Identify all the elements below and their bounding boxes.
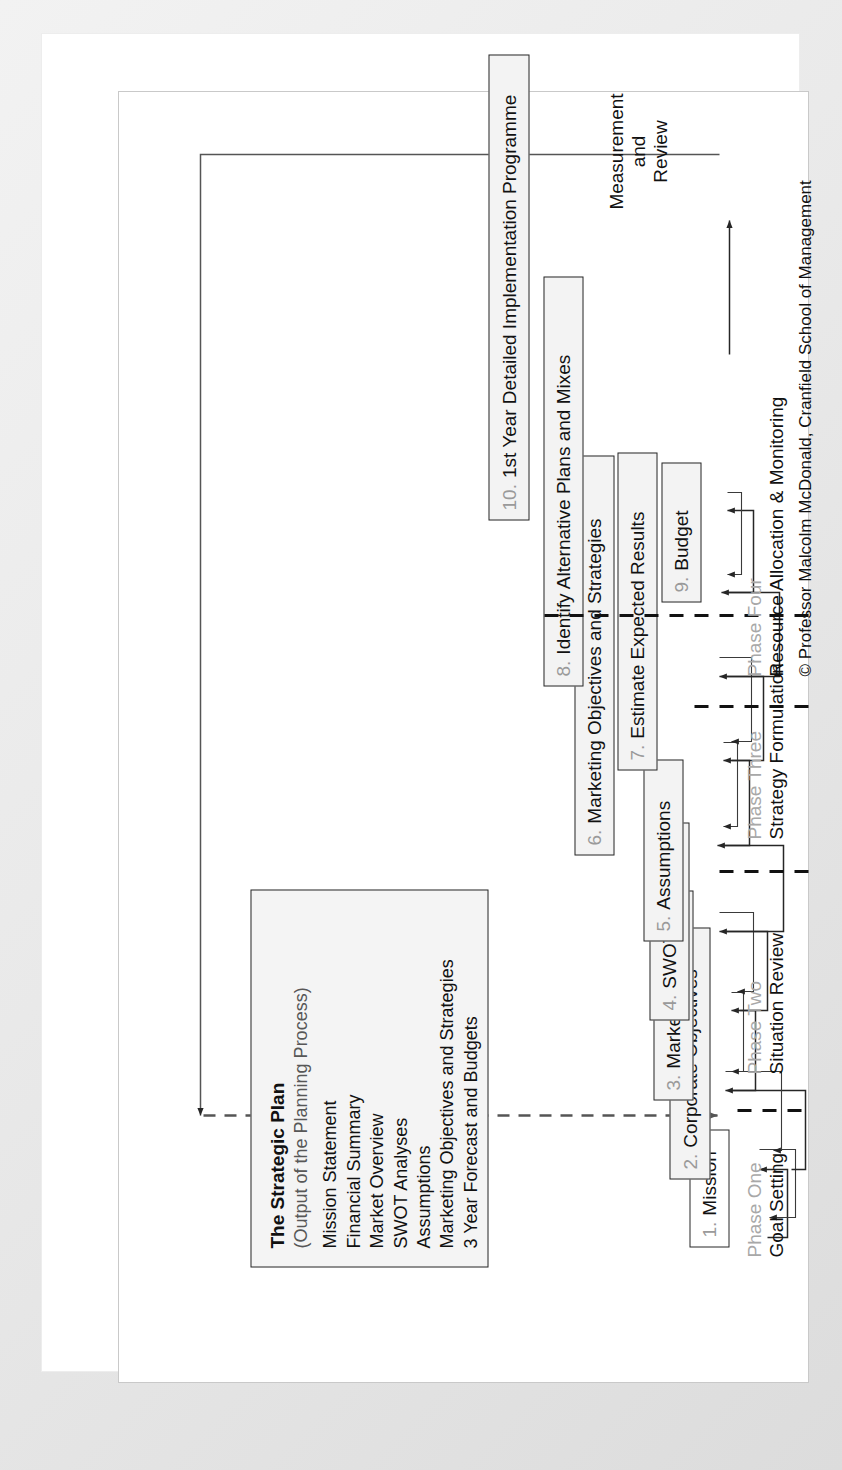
phase-name: Phase One — [743, 1152, 765, 1257]
phase-separators — [119, 92, 808, 1382]
feedback-line-2: and — [627, 76, 649, 226]
feedback-label: Measurement and Review — [605, 76, 671, 226]
scan-background: The Strategic Plan (Output of the Planni… — [0, 0, 842, 1470]
phase-name: Phase Four — [743, 396, 765, 676]
phase-label-two: Phase Two Situation Review — [743, 932, 787, 1074]
phase-label-one: Phase One Goal Setting — [743, 1152, 787, 1257]
rotated-diagram-canvas: The Strategic Plan (Output of the Planni… — [119, 92, 808, 1382]
phase-name: Phase Three — [743, 663, 765, 839]
copyright-notice: © Professor Malcolm McDonald, Cranfield … — [795, 180, 815, 676]
phase-name: Phase Two — [743, 932, 765, 1074]
feedback-line-3: Review — [649, 76, 671, 226]
phase-label-four: Phase Four Resource Allocation & Monitor… — [743, 396, 787, 676]
phase-desc: Situation Review — [765, 932, 787, 1074]
phase-desc: Resource Allocation & Monitoring — [765, 396, 787, 676]
page-sheet: The Strategic Plan (Output of the Planni… — [42, 34, 799, 1371]
diagram-frame: The Strategic Plan (Output of the Planni… — [118, 91, 809, 1383]
diagram-canvas: The Strategic Plan (Output of the Planni… — [119, 92, 808, 1382]
phase-label-three: Phase Three Strategy Formulation — [743, 663, 787, 839]
feedback-line-1: Measurement — [605, 76, 627, 226]
phase-desc: Goal Setting — [765, 1152, 787, 1257]
phase-desc: Strategy Formulation — [765, 663, 787, 839]
